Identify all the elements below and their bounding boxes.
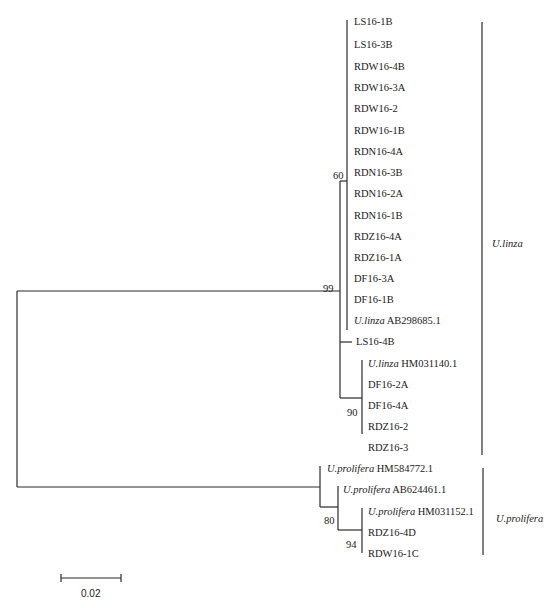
leaf-label: U.prolifera HM584772.1 [327,463,433,475]
leaf-label: LS16-1B [354,16,393,28]
leaf-label: RDZ16-3 [368,442,408,454]
leaf-label: RDN16-3B [354,167,402,179]
accession-name: AB624461.1 [392,484,446,495]
leaf-label: RDW16-1C [368,548,419,560]
leaf-label: RDZ16-4A [354,231,402,243]
leaf-label: U.linza AB298685.1 [354,315,441,327]
accession-name: RDZ16-3 [368,442,408,453]
accession-name: DF16-2A [368,379,408,390]
scale-bar [61,574,121,582]
accession-name: RDW16-1C [368,548,419,559]
tree-branches [17,20,362,553]
bootstrap-value: 80 [324,515,335,527]
clade-label: U.linza [492,238,523,250]
leaf-label: U.prolifera AB624461.1 [343,484,446,496]
leaf-label: DF16-1B [354,294,394,306]
accession-name: RDN16-3B [354,167,402,178]
leaf-label: U.prolifera HM031152.1 [368,506,474,518]
leaf-label: LS16-3B [354,39,393,51]
bootstrap-value: 99 [323,283,334,295]
leaf-label: RDN16-1B [354,210,402,222]
accession-name: LS16-4B [356,336,395,347]
leaf-label: DF16-3A [354,273,394,285]
leaf-label: U.linza HM031140.1 [368,358,457,370]
accession-name: LS16-1B [354,16,393,27]
accession-name: RDZ16-4D [368,527,416,538]
leaf-label: RDZ16-4D [368,527,416,539]
clade-bars [482,22,483,555]
clade-label: U.prolifera [496,513,543,525]
accession-name: RDZ16-4A [354,231,402,242]
leaf-label: RDN16-4A [354,146,403,158]
leaf-label: RDW16-4B [354,61,405,73]
accession-name: RDZ16-1A [354,252,402,263]
leaf-label: RDZ16-1A [354,252,402,264]
accession-name: LS16-3B [354,39,393,50]
accession-name: DF16-3A [354,273,394,284]
accession-name: RDW16-2 [354,103,398,114]
leaf-label: DF16-2A [368,379,408,391]
leaf-label: RDW16-1B [354,125,405,137]
accession-name: RDN16-2A [354,188,403,199]
leaf-label: DF16-4A [368,400,408,412]
species-name: U.linza [368,358,399,369]
accession-name: HM031152.1 [418,506,474,517]
leaf-label: RDN16-2A [354,188,403,200]
species-name: U.linza [354,315,385,326]
bootstrap-value: 90 [347,407,358,419]
leaf-label: RDW16-2 [354,103,398,115]
species-name: U.prolifera [327,463,374,474]
accession-name: RDZ16-2 [368,421,408,432]
leaf-label: LS16-4B [356,336,395,348]
accession-name: RDN16-4A [354,146,403,157]
scale-bar-label: 0.02 [81,588,100,600]
accession-name: RDW16-3A [354,82,405,93]
bootstrap-value: 94 [346,539,357,551]
accession-name: DF16-4A [368,400,408,411]
accession-name: AB298685.1 [387,315,441,326]
leaf-label: RDW16-3A [354,82,405,94]
accession-name: DF16-1B [354,294,394,305]
species-name: U.prolifera [368,506,415,517]
bootstrap-value: 60 [333,170,344,182]
accession-name: HM584772.1 [377,463,433,474]
accession-name: RDW16-1B [354,125,405,136]
leaf-label: RDZ16-2 [368,421,408,433]
accession-name: RDN16-1B [354,210,402,221]
accession-name: HM031140.1 [401,358,457,369]
accession-name: RDW16-4B [354,61,405,72]
species-name: U.prolifera [343,484,390,495]
